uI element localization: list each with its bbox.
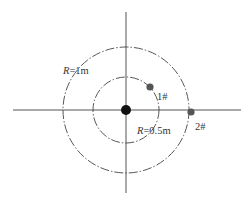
outer-radius-label: R=1m [62, 65, 89, 76]
diagram-canvas: R=1m R=0.5m 1# 2# [0, 0, 248, 204]
point-2-label: 2# [195, 121, 206, 132]
measure-point-1 [146, 83, 153, 90]
point-1-label: 1# [157, 91, 168, 102]
center-point [121, 105, 131, 115]
inner-radius-label: R=0.5m [136, 125, 171, 136]
measure-point-2 [187, 108, 194, 115]
